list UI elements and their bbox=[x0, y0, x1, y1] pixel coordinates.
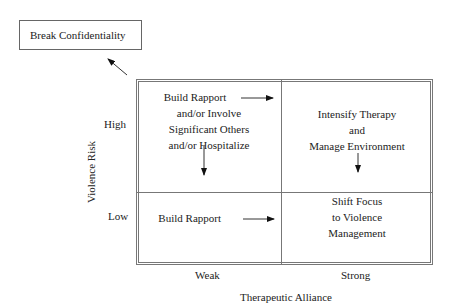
arrow-to-break-confidentiality-icon bbox=[108, 59, 127, 75]
arrows-layer bbox=[0, 0, 449, 307]
